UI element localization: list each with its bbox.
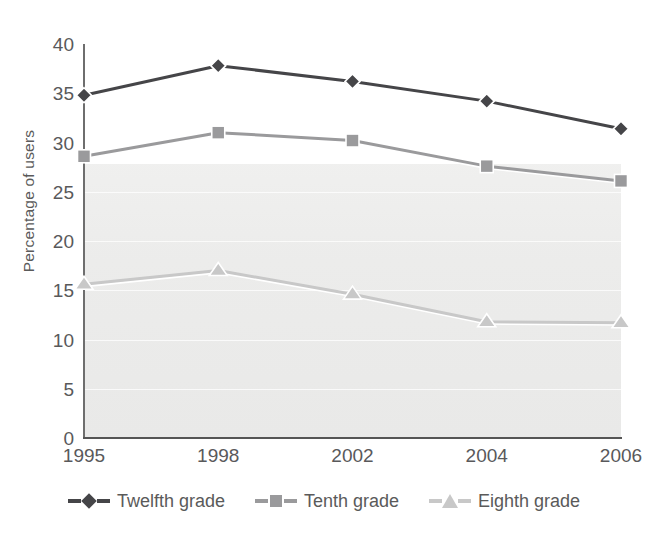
- data-point-marker: [209, 262, 227, 275]
- x-tick-label: 1995: [39, 446, 129, 465]
- data-point-marker: [615, 174, 628, 187]
- legend-line-segment: [97, 499, 110, 503]
- data-point-marker: [212, 126, 225, 139]
- legend-item-twelfth-grade[interactable]: Twelfth grade: [68, 492, 225, 510]
- data-point-marker: [78, 150, 91, 163]
- data-point-marker: [77, 88, 92, 103]
- legend-line-segment: [429, 499, 442, 503]
- data-point-marker: [612, 315, 630, 328]
- x-tick-label: 1998: [173, 446, 263, 465]
- x-tick-label: 2006: [576, 446, 648, 465]
- data-point-marker: [480, 160, 493, 173]
- legend-label: Tenth grade: [304, 492, 399, 510]
- legend-swatch-diamond-icon: [68, 493, 110, 509]
- legend-label: Twelfth grade: [117, 492, 225, 510]
- legend-marker-triangle-icon: [442, 494, 458, 508]
- legend-item-eighth-grade[interactable]: Eighth grade: [429, 492, 580, 510]
- x-tick-label: 2004: [442, 446, 532, 465]
- legend-swatch-square-icon: [255, 493, 297, 509]
- x-tick-label: 2002: [308, 446, 398, 465]
- series-tenth-grade: [78, 126, 628, 187]
- data-point-marker: [345, 74, 360, 89]
- data-point-marker: [211, 58, 226, 73]
- data-point-marker: [614, 121, 629, 136]
- legend-line-segment: [255, 499, 268, 503]
- legend-line-segment: [284, 499, 297, 503]
- data-point-marker: [346, 134, 359, 147]
- series-twelfth-grade: [77, 58, 629, 136]
- x-axis-tick-labels: 19951998200220042006: [0, 446, 648, 476]
- legend-label: Eighth grade: [478, 492, 580, 510]
- legend-item-tenth-grade[interactable]: Tenth grade: [255, 492, 399, 510]
- legend-marker-square-icon: [270, 495, 282, 507]
- line-chart-figure: Percentage of users 0510152025303540 199…: [0, 0, 648, 539]
- data-point-marker: [479, 94, 494, 109]
- legend-marker-diamond-icon: [81, 493, 97, 509]
- legend: Twelfth gradeTenth gradeEighth grade: [0, 492, 648, 510]
- series-eighth-grade: [75, 262, 630, 327]
- legend-line-segment: [68, 499, 81, 503]
- legend-swatch-triangle-icon: [429, 493, 471, 509]
- legend-line-segment: [458, 499, 471, 503]
